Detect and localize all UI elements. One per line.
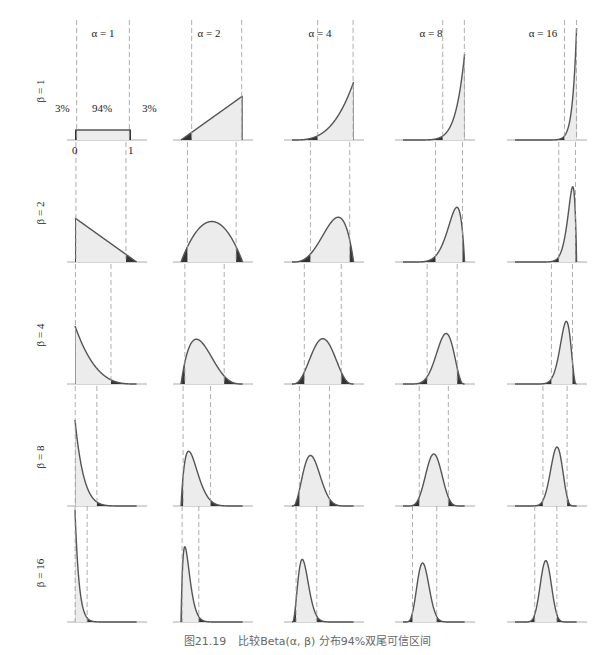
row-label-beta-16: β = 16: [34, 543, 46, 603]
figure-caption: 图21.19比较Beta(α, β) 分布94%双尾可信区间: [0, 632, 615, 648]
panel-a4-b8: [284, 386, 364, 506]
panel-a2-b16: [173, 506, 253, 622]
column-label-alpha-16: α = 16: [513, 27, 573, 39]
figure-number: 图21.19: [184, 635, 227, 648]
panel-a1-b4: [67, 264, 147, 384]
column-label-alpha-8: α = 8: [401, 27, 461, 39]
credible-region-fill: [187, 222, 236, 263]
x-min-tick-label: 0: [72, 144, 78, 156]
credible-region-fill: [535, 561, 557, 622]
panel-a16-b4: [507, 264, 587, 384]
column-label-alpha-4: α = 4: [290, 27, 350, 39]
column-label-alpha-2: α = 2: [179, 27, 239, 39]
column-label-alpha-1: α = 1: [73, 27, 133, 39]
credible-region-fill: [75, 328, 110, 384]
density-curve: [75, 510, 137, 622]
x-max-tick-label: 1: [128, 144, 134, 156]
credible-region-fill: [183, 451, 210, 506]
panel-a8-b2: [395, 142, 475, 262]
left-tail-label: 3%: [55, 102, 70, 114]
credible-region-fill: [76, 219, 126, 262]
row-label-beta-2: β = 2: [34, 183, 46, 243]
panel-a2-b4: [173, 264, 253, 384]
panel-a1-b2: [67, 142, 147, 262]
density-curve: [515, 28, 577, 140]
credible-region-fill: [564, 31, 576, 140]
panel-a4-b4: [284, 264, 364, 384]
credible-region-fill: [299, 455, 329, 506]
row-label-beta-4: β = 4: [34, 305, 46, 365]
panel-a16-b16: [507, 506, 587, 622]
credible-region-fill: [192, 97, 242, 140]
credible-region-fill: [304, 339, 341, 384]
credible-region-fill: [77, 130, 130, 140]
credible-region-fill: [443, 56, 465, 140]
panel-a8-b8: [395, 386, 475, 506]
beta-grid-plot: [0, 0, 615, 630]
panel-a16-b8: [507, 386, 587, 506]
credible-region-fill: [427, 333, 457, 384]
panel-a8-b4: [395, 264, 475, 384]
panel-a2-b2: [173, 142, 253, 262]
credible-region-fill: [75, 424, 97, 506]
credible-region-fill: [436, 207, 463, 262]
panel-a16-b2: [507, 142, 587, 262]
credible-region-fill: [318, 83, 353, 140]
panel-a4-b16: [284, 506, 364, 622]
panel-a8-b16: [395, 506, 475, 622]
row-label-beta-8: β = 8: [34, 427, 46, 487]
panel-a1-b16: [67, 506, 147, 622]
panel-a2-b8: [173, 386, 253, 506]
panel-a1-b8: [67, 386, 147, 506]
row-label-beta-1: β = 1: [34, 61, 46, 121]
center-mass-label: 94%: [92, 102, 112, 114]
right-tail-label: 3%: [142, 102, 157, 114]
panel-a4-b2: [284, 142, 364, 262]
figure-caption-text: 比较Beta(α, β) 分布94%双尾可信区间: [238, 635, 431, 648]
credible-region-fill: [75, 515, 87, 622]
